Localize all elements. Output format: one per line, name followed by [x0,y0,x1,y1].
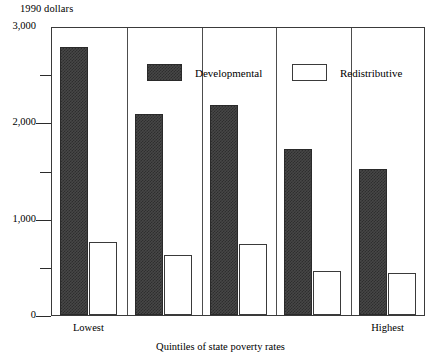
y-axis-unit-label: 1990 dollars [20,3,73,14]
y-axis-tick-label: 3,000 [2,20,36,31]
y-axis-tick-major [36,316,51,317]
legend-label-redistributive: Redistributive [340,67,402,79]
x-axis-category-label: Lowest [73,322,104,333]
y-axis-tick-label: 2,000 [2,116,36,127]
x-axis-category-label: Highest [371,322,404,333]
bar-chart: 1990 dollars 01,0002,0003,000 Developmen… [0,0,441,359]
plot-area: Developmental Redistributive [51,27,425,316]
bar-developmental [359,169,387,315]
bar-developmental [60,47,88,315]
x-axis-title: Quintiles of state poverty rates [0,341,441,352]
bar-developmental [210,105,238,315]
y-axis-tick-minor [40,268,51,269]
bar-developmental [135,114,163,315]
bar-redistributive [388,273,416,315]
chart-legend: Developmental Redistributive [52,64,424,86]
bar-redistributive [89,242,117,315]
y-axis-tick-label: 0 [2,309,36,320]
y-axis-tick-minor [40,172,51,173]
legend-item-developmental: Developmental [147,64,262,81]
y-axis-tick-major [36,220,51,221]
legend-item-redistributive: Redistributive [292,64,402,81]
y-axis-tick-label: 1,000 [2,213,36,224]
legend-label-developmental: Developmental [195,67,262,79]
bar-redistributive [164,255,192,315]
bar-redistributive [313,271,341,315]
y-axis-tick-minor [40,75,51,76]
y-axis-tick-major [36,123,51,124]
legend-swatch-developmental [147,64,182,81]
bar-developmental [284,149,312,315]
legend-swatch-redistributive [292,64,327,81]
bar-redistributive [239,244,267,315]
